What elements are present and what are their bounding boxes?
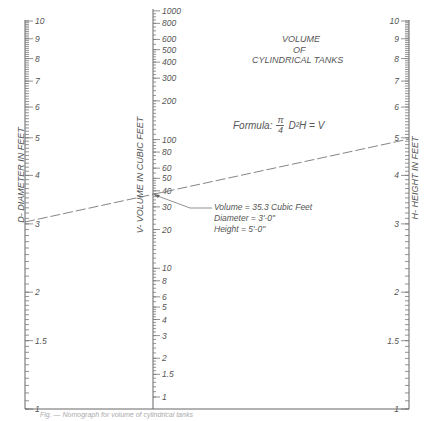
- middle-axis-tick-label: 1: [162, 392, 167, 402]
- right-axis-label: H- HEIGHT IN FEET: [410, 103, 420, 253]
- right-axis-tick-label: 3: [394, 219, 399, 229]
- formula-expression: D²H = V: [288, 120, 324, 131]
- middle-axis-tick-label: 300: [162, 73, 176, 83]
- left-axis-tick-label: 5: [35, 133, 40, 143]
- middle-axis-label: V- VOLUME IN CUBIC FEET: [135, 100, 145, 250]
- middle-axis-tick-label: 100: [162, 135, 176, 145]
- middle-axis-tick-label: 30: [162, 202, 172, 212]
- left-axis-label: D- DIAMETER IN FEET: [16, 100, 26, 250]
- formula-denominator: 4: [278, 126, 283, 135]
- left-axis-tick-label: 2: [34, 287, 40, 297]
- figure-caption: Fig. — Nomograph for volume of cylindric…: [40, 411, 193, 418]
- right-axis-tick-label: 1: [394, 404, 399, 414]
- left-axis-tick-label: 6: [35, 102, 40, 112]
- example-height: Height = 5'-0": [214, 224, 265, 234]
- middle-axis-tick-label: 1.5: [162, 369, 174, 379]
- middle-axis-tick-label: 500: [162, 45, 176, 55]
- right-axis-tick-label: 4: [394, 170, 399, 180]
- right-axis-tick-label: 6: [394, 102, 399, 112]
- title-line-3: CYLINDRICAL TANKS: [252, 55, 343, 65]
- right-axis-tick-label: 9: [394, 34, 399, 44]
- example-volume: Volume = 35.3 Cubic Feet: [214, 202, 312, 212]
- middle-axis-tick-label: 8: [162, 276, 167, 286]
- formula: Formula: π 4 D²H = V: [233, 116, 324, 135]
- right-axis-tick-label: 1.5: [387, 336, 399, 346]
- middle-axis-tick-label: 600: [162, 34, 176, 44]
- right-axis-tick-label: 2: [393, 287, 399, 297]
- middle-axis-tick-label: 60: [162, 163, 172, 173]
- title-line-2: OF: [293, 45, 306, 55]
- left-axis-tick-label: 10: [35, 16, 45, 26]
- middle-axis-tick-label: 2: [161, 353, 167, 363]
- formula-fraction: π 4: [276, 116, 284, 135]
- left-axis-tick-label: 9: [35, 34, 40, 44]
- right-axis-tick-label: 8: [394, 54, 399, 64]
- middle-axis-tick-label: 200: [161, 96, 176, 106]
- left-axis-tick-label: 7: [35, 76, 40, 86]
- middle-axis-tick-label: 6: [162, 292, 167, 302]
- left-axis-tick-label: 4: [35, 170, 40, 180]
- middle-axis-tick-label: 4: [162, 315, 167, 325]
- middle-axis-tick-label: 5: [162, 302, 167, 312]
- middle-axis-tick-label: 800: [162, 18, 176, 28]
- left-axis-tick-label: 3: [35, 219, 40, 229]
- middle-axis-tick-label: 80: [162, 147, 172, 157]
- left-axis-tick-label: 8: [35, 54, 40, 64]
- right-axis-tick-label: 10: [390, 16, 400, 26]
- formula-prefix: Formula:: [233, 120, 272, 131]
- middle-axis-tick-label: 3: [162, 331, 167, 341]
- example-diameter: Diameter = 3'-0": [214, 213, 275, 223]
- middle-axis-tick-label: 20: [161, 225, 172, 235]
- arrow-icon: [153, 194, 160, 198]
- middle-axis-tick-label: 400: [162, 57, 176, 67]
- title-line-1: VOLUME: [282, 34, 320, 44]
- middle-axis-tick-label: 50: [162, 173, 172, 183]
- left-axis-tick-label: 1.5: [35, 336, 47, 346]
- middle-axis-tick-label: 1000: [162, 6, 181, 16]
- right-axis-tick-label: 7: [394, 76, 399, 86]
- middle-axis-tick-label: 10: [162, 263, 172, 273]
